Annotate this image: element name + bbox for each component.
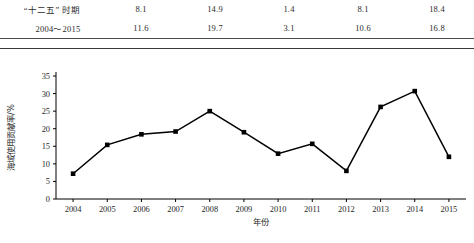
x-tick-label: 2013 [372, 205, 389, 214]
data-point-marker [447, 155, 452, 160]
data-point-marker [276, 151, 281, 156]
y-tick-label: 35 [42, 72, 50, 81]
x-tick-label: 2015 [441, 205, 458, 214]
y-axis-ticks: 05101520253035 [42, 72, 56, 204]
x-tick-label: 2007 [167, 205, 184, 214]
y-tick-label: 5 [46, 177, 50, 186]
data-point-marker [412, 89, 417, 94]
x-tick-label: 2012 [338, 205, 355, 214]
y-tick-label: 10 [42, 160, 50, 169]
table-row: “十二五” 时期 8.1 14.9 1.4 8.1 18.4 [0, 0, 474, 19]
statistics-table: “十二五” 时期 8.1 14.9 1.4 8.1 18.4 2004～2015… [0, 0, 474, 39]
chart-canvas: 05101520253035 2004200520062007200820092… [0, 58, 474, 243]
row-label-period: “十二五” 时期 [0, 0, 104, 19]
table-cell: 19.7 [178, 19, 252, 39]
data-point-marker [344, 169, 349, 174]
x-axis-title: 年份 [253, 217, 270, 227]
data-point-marker [378, 105, 383, 110]
x-tick-label: 2006 [133, 205, 150, 214]
y-tick-label: 15 [42, 142, 50, 151]
x-tick-label: 2005 [99, 205, 116, 214]
data-point-marker [105, 143, 110, 148]
x-tick-label: 2009 [236, 205, 253, 214]
data-point-marker [139, 132, 144, 137]
data-table-fragment: “十二五” 时期 8.1 14.9 1.4 8.1 18.4 2004～2015… [0, 0, 474, 52]
table-cell: 18.4 [400, 0, 474, 19]
table-cell: 11.6 [104, 19, 178, 39]
table-cell: 10.6 [326, 19, 400, 39]
table-cell: 1.4 [252, 0, 326, 19]
x-tick-label: 2014 [406, 205, 424, 214]
data-point-marker [242, 130, 247, 135]
x-tick-label: 2011 [304, 205, 320, 214]
table-bottom-rule [0, 48, 474, 49]
line-chart: 05101520253035 2004200520062007200820092… [0, 58, 474, 243]
series-markers [71, 89, 451, 176]
x-tick-label: 2008 [201, 205, 218, 214]
table-cell: 3.1 [252, 19, 326, 39]
data-point-marker [310, 142, 315, 147]
table-cell: 8.1 [104, 0, 178, 19]
series-polyline [73, 91, 449, 174]
x-tick-label: 2010 [270, 205, 287, 214]
table-cell: 14.9 [178, 0, 252, 19]
table-row: 2004～2015 11.6 19.7 3.1 10.6 16.8 [0, 19, 474, 39]
y-axis-title: 海域使用贡献率/% [6, 104, 16, 171]
table-cell: 16.8 [400, 19, 474, 39]
table-body: “十二五” 时期 8.1 14.9 1.4 8.1 18.4 2004～2015… [0, 0, 474, 39]
table-cell: 8.1 [326, 0, 400, 19]
data-point-marker [71, 171, 76, 176]
x-tick-label: 2004 [65, 205, 83, 214]
row-label-range: 2004～2015 [0, 19, 104, 39]
x-axis-ticks: 2004200520062007200820092010201120122013… [65, 199, 458, 214]
y-tick-label: 25 [42, 107, 50, 116]
data-point-marker [173, 129, 178, 134]
y-tick-label: 30 [42, 90, 50, 99]
y-tick-label: 20 [42, 125, 50, 134]
y-tick-label: 0 [46, 195, 50, 204]
data-point-marker [207, 109, 212, 114]
